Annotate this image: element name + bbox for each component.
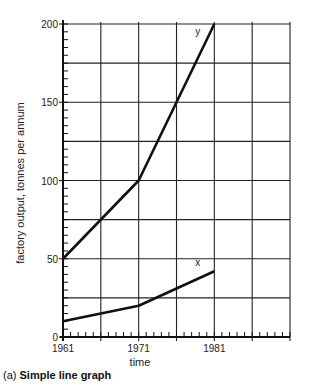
chart-grid [63,22,290,341]
x-tick-label: 1971 [128,343,151,354]
x-tick-label: 1981 [203,343,226,354]
x-axis-label: time [130,356,151,368]
y-tick-label: 150 [41,97,58,108]
y-tick-label: 100 [41,176,58,187]
y-tick-label: 50 [47,254,59,265]
figure-caption: (a) Simple line graph [3,369,111,381]
series-label-y: y [195,26,200,37]
caption-prefix: (a) [3,369,16,381]
y-axis-label: factory output, tonnes per annum [14,102,26,263]
x-tick-label: 1961 [52,343,75,354]
line-chart: yx 050100150200196119711981 [0,0,309,384]
y-tick-label: 200 [41,19,58,30]
y-tick-label: 0 [52,332,58,343]
caption-title: Simple line graph [20,369,112,381]
series-label-x: x [195,257,200,268]
